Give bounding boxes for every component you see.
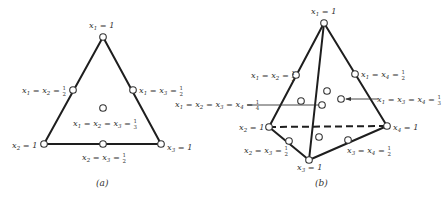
label-b-centroid: x1 = x2 = x3 = x4 = 14: [175, 99, 260, 111]
label-a-x1: x1 = 1: [89, 20, 114, 31]
label-b-x2x3: x2 = x3 = 12: [244, 145, 288, 157]
label-a-centroid: x1 = x2 = x3 = 13: [73, 118, 138, 130]
simplex-diagram: x1 = 1 x1 = x2 = 12 x1 = x3 = 12 x1 = x2…: [0, 0, 448, 201]
node-a-x1x2-mid: [70, 87, 77, 94]
label-b-x1x4: x1 = x4 = 12: [361, 69, 405, 81]
node-b-x2x3-mid: [286, 138, 293, 145]
label-b-x4: x4 = 1: [393, 122, 418, 133]
panel-b-tetrahedron: x1 = 1 x1 = x2 = 12 x1 = x4 = 12 x1 = x2…: [175, 6, 442, 188]
node-b-centroid: [319, 102, 326, 109]
caption-a: (a): [96, 178, 109, 188]
node-b-face-x1x2x3: [298, 98, 305, 105]
caption-b: (b): [315, 178, 328, 188]
node-b-face-x2x3x4: [316, 134, 323, 141]
label-a-x3: x3 = 1: [167, 142, 192, 153]
label-a-x1x2: x1 = x2 = 12: [22, 85, 66, 97]
node-b-x1: [321, 20, 328, 27]
label-a-x2x3: x2 = x3 = 12: [82, 152, 126, 164]
label-a-x2: x2 = 1: [12, 140, 37, 151]
panel-a-triangle: x1 = 1 x1 = x2 = 12 x1 = x3 = 12 x1 = x2…: [12, 20, 192, 188]
node-a-x2: [41, 141, 48, 148]
node-a-centroid: [100, 105, 107, 112]
label-b-x2: x2 = 1: [239, 122, 264, 133]
node-b-x2: [266, 124, 273, 131]
node-b-x1x4-mid: [352, 71, 359, 78]
label-b-x1x2: x1 = x2 = 12: [251, 70, 295, 82]
label-b-face-x1x3x4: x1 = x3 = x4 = 13: [377, 94, 442, 106]
arrowhead-icon: [345, 97, 351, 101]
node-b-x4: [384, 123, 391, 130]
label-b-x1: x1 = 1: [311, 6, 336, 17]
node-a-x3: [158, 141, 165, 148]
label-b-x3: x3 = 1: [297, 162, 322, 173]
node-b-face-x1x2x4: [324, 88, 331, 95]
node-a-x2x3-mid: [100, 141, 107, 148]
label-a-x1x3: x1 = x3 = 12: [139, 85, 183, 97]
node-a-x1x3-mid: [130, 87, 137, 94]
node-b-x3x4-mid: [345, 137, 352, 144]
node-a-x1: [100, 34, 107, 41]
label-b-x3x4: x3 = x4 = 12: [347, 145, 391, 157]
node-b-face-x1x3x4: [338, 96, 345, 103]
edge-x2-x4-hidden: [269, 126, 387, 127]
